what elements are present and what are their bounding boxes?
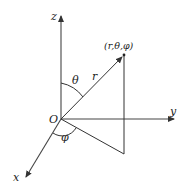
theta-label: θ xyxy=(72,74,79,87)
x-axis xyxy=(26,119,61,177)
origin-label: O xyxy=(49,113,58,126)
spherical-coordinates-diagram: z y x O (r,θ,φ) r θ φ xyxy=(0,0,188,193)
y-axis-label: y xyxy=(169,105,177,118)
phi-label: φ xyxy=(61,131,69,144)
point-label: (r,θ,φ) xyxy=(104,40,134,51)
x-axis-label: x xyxy=(13,171,20,184)
xy-plane-projection-line xyxy=(61,119,124,154)
z-axis-label: z xyxy=(50,10,57,23)
radius-label: r xyxy=(92,70,98,83)
radius-vector xyxy=(61,57,122,119)
point-marker xyxy=(123,54,126,57)
